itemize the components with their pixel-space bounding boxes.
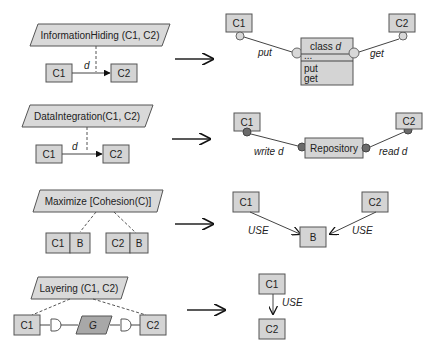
pattern-data-integration: DataIntegration(C1, C2) C1 d C2 [22,105,153,163]
class-label-c1: C1 [43,149,56,160]
dashed-link [114,212,136,233]
dashed-link [32,299,70,315]
class-d-name: d [336,41,342,52]
interface-ball [236,32,244,40]
class-label-c1: C1 [241,117,254,128]
label-use: USE [352,225,373,236]
interface-ball [349,48,359,58]
diagram-canvas: InformationHiding (C1, C2) C1 d C2 C1 pu… [0,0,436,356]
label-use: USE [282,297,303,308]
pattern-title: InformationHiding (C1, C2) [41,30,160,41]
edge-label-d: d [84,60,90,71]
pattern-title: Layering (C1, C2) [40,283,119,294]
pattern-title: Maximize [Cohesion(C)] [45,196,152,207]
class-label-c2: C2 [266,324,279,335]
class-label-b: B [77,238,84,249]
pattern-title: DataIntegration(C1, C2) [34,111,140,122]
class-label-c2: C2 [369,197,382,208]
result-information-hiding: C1 put class d ... put get get C2 [226,14,415,85]
result-maximize-cohesion: C1 USE B C2 USE [233,192,388,247]
repository-label: Repository [310,143,358,154]
row-layering: Layering (C1, C2) C1 G C2 C1 USE C2 [14,274,303,339]
port-dark [243,128,251,136]
dashed-link [80,212,96,232]
label-read-d: read d [379,146,408,157]
interface-ball [399,32,407,40]
class-label-c1: C1 [240,197,253,208]
row-information-hiding: InformationHiding (C1, C2) C1 d C2 C1 pu… [30,14,415,85]
class-label-c2: C2 [396,18,409,29]
result-layering: C1 USE C2 [259,274,303,339]
class-label-c1: C1 [52,238,65,249]
class-label-c2: C2 [403,116,416,127]
row-maximize-cohesion: Maximize [Cohesion(C)] C1 B C2 B C1 USE … [33,190,388,253]
label-get: get [370,48,385,59]
class-label-c1: C1 [266,279,279,290]
class-label-b: B [310,232,317,243]
class-label-c1: C1 [233,18,246,29]
connector-read [370,132,404,147]
class-label-c2: C2 [110,149,123,160]
pattern-maximize-cohesion: Maximize [Cohesion(C)] C1 B C2 B [33,190,163,253]
class-d-op-get: get [304,73,318,84]
class-label-c2: C2 [112,238,125,249]
label-put: put [257,47,273,58]
class-label-c1: C1 [53,68,66,79]
row-data-integration: DataIntegration(C1, C2) C1 d C2 C1 write… [22,105,422,163]
port-dark [362,144,370,152]
layer-g-label: G [89,320,97,331]
class-d-title: class d [310,41,342,52]
pattern-information-hiding: InformationHiding (C1, C2) C1 d C2 [30,24,170,82]
required-interface-socket [51,319,61,331]
class-label-b: B [136,238,143,249]
class-label-c1: C1 [21,320,34,331]
result-data-integration: C1 write d Repository read d C2 [234,113,422,158]
class-label-c2: C2 [118,68,131,79]
required-interface-socket [121,319,131,331]
dashed-link [93,299,146,315]
pattern-layering: Layering (C1, C2) C1 G C2 [14,277,166,335]
class-label-c2: C2 [147,320,160,331]
connector-write [251,134,298,146]
class-d-attributes: ... [304,50,312,61]
label-use: USE [248,225,269,236]
edge-label-d: d [72,141,78,152]
label-write-d: write d [254,146,284,157]
